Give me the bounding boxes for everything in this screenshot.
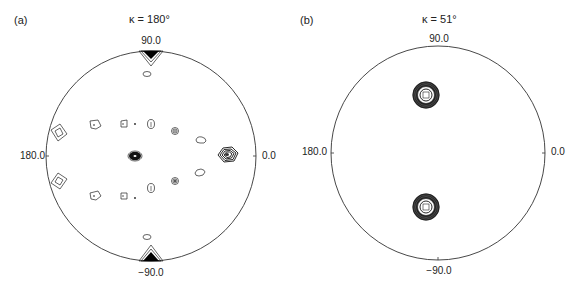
contour-diamond-lower <box>51 173 67 189</box>
contour-center <box>122 123 123 124</box>
contour-dot <box>134 197 136 199</box>
contour-square <box>121 193 127 199</box>
panel-b-title: κ = 51° <box>422 13 457 25</box>
contour-pentagon <box>90 191 101 200</box>
contour-right-peak <box>218 147 238 162</box>
title-value: 180° <box>147 13 170 25</box>
peak-bottom <box>139 245 163 261</box>
contour-pentagon <box>90 120 101 129</box>
contour-diamond-upper <box>51 124 67 141</box>
contour-dot <box>134 123 136 125</box>
panel-b: (b) κ = 51° 90.0 −90.0 180.0 0.0 <box>300 13 565 276</box>
contour-ring-upper <box>172 128 179 135</box>
contour-ring-lower <box>172 178 179 185</box>
angle-label-bottom: −90.0 <box>426 265 452 276</box>
title-prefix: κ = <box>129 13 147 25</box>
contour-square <box>121 120 127 127</box>
contour-oval <box>196 137 206 143</box>
angle-label-right: 0.0 <box>551 146 565 157</box>
contour-center <box>93 195 95 197</box>
projection-circle <box>331 46 545 260</box>
panel-b-label: (b) <box>300 14 313 26</box>
contour-ring-upper <box>413 82 439 108</box>
contour-oval <box>143 235 151 240</box>
angle-label-top: 90.0 <box>141 35 161 46</box>
contour-oval-i-upper <box>148 120 155 129</box>
contour-ring-lower <box>413 194 439 220</box>
panel-a-title: κ = 180° <box>129 13 170 25</box>
contour-oval-i-lower <box>148 184 155 193</box>
angle-label-right: 0.0 <box>262 150 276 161</box>
angle-label-left: 180.0 <box>302 146 327 157</box>
panel-a: (a) κ = 180° 90.0 −90.0 180.0 0.0 <box>14 13 276 278</box>
contour-center <box>93 124 95 126</box>
angle-label-left: 180.0 <box>20 150 45 161</box>
angle-label-bottom: −90.0 <box>138 267 164 278</box>
title-value: 51° <box>440 13 457 25</box>
title-prefix: κ = <box>422 13 440 25</box>
pole-figures: (a) κ = 180° 90.0 −90.0 180.0 0.0 <box>0 0 580 290</box>
contour-oval <box>143 72 151 77</box>
contour-center <box>122 195 123 196</box>
panel-a-label: (a) <box>14 14 27 26</box>
contour-oval <box>195 169 205 176</box>
peak-top <box>139 51 163 66</box>
angle-label-top: 90.0 <box>429 33 449 44</box>
contour-center-blob <box>128 151 142 161</box>
